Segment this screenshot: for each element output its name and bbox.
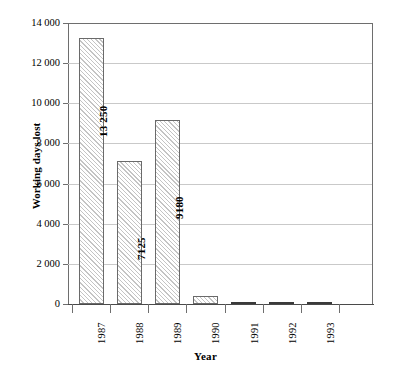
plot-area: 13 25071259180 — [68, 23, 373, 304]
x-axis-tick-label-1990: 1990 — [210, 322, 221, 344]
bar-value-label: 13 250 — [97, 106, 109, 137]
x-axis-tick-label-1991: 1991 — [249, 322, 260, 344]
y-axis-tick-label: 12 000 — [12, 58, 60, 68]
bar-value-label: 9180 — [173, 196, 185, 219]
bar-1988 — [117, 161, 142, 304]
y-axis-tick-label: 4 000 — [12, 219, 60, 229]
y-axis-tick-label: 2 000 — [12, 259, 60, 269]
y-axis-tick-label: 0 — [12, 299, 60, 309]
x-axis-tick-label-1987: 1987 — [96, 322, 107, 344]
y-axis-tick-labels: 02 0004 0006 0008 00010 00012 00014 000 — [12, 0, 60, 374]
bar-value-label: 7125 — [135, 237, 147, 260]
x-axis-tick-label-1988: 1988 — [134, 322, 145, 344]
x-axis-tick-label-1993: 1993 — [325, 322, 336, 344]
x-axis-tick-label-1989: 1989 — [172, 322, 183, 344]
x-axis-tick-label-1992: 1992 — [287, 322, 298, 344]
bar-chart: Working days lost 02 0004 0006 0008 0001… — [0, 0, 411, 374]
y-axis-tick-label: 10 000 — [12, 98, 60, 108]
y-axis-tick-label: 8 000 — [12, 138, 60, 148]
y-axis-tick-label: 14 000 — [12, 18, 60, 28]
x-axis-title: Year — [0, 350, 411, 362]
y-axis-tick-label: 6 000 — [12, 179, 60, 189]
bar-1990 — [193, 296, 218, 304]
bars-layer: 13 25071259180 — [68, 23, 372, 304]
bar-1987 — [79, 38, 104, 304]
